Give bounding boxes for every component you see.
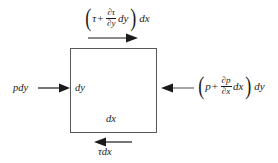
top-differential: dy xyxy=(118,13,128,24)
open-paren: ( xyxy=(198,77,204,95)
bottom-force-arrow-left xyxy=(92,136,132,148)
element-height-label: dy xyxy=(75,83,85,94)
close-paren: ) xyxy=(245,77,251,95)
right-trailing-differential: dy xyxy=(254,81,264,92)
top-fraction-denominator: ∂y xyxy=(106,19,116,28)
right-fraction-denominator: ∂x xyxy=(221,87,231,96)
left-force-arrow-right xyxy=(38,82,70,94)
top-trailing-differential: dx xyxy=(139,13,149,24)
element-width-label: dx xyxy=(106,114,116,125)
fluid-element-force-diagram: dy dx pdy τdx ( τ + ∂τ ∂y dy ) dx ( p + … xyxy=(0,0,278,163)
top-base-symbol: τ xyxy=(92,13,96,24)
left-pressure-force-label: pdy xyxy=(13,83,28,94)
top-shear-force-expression: ( τ + ∂τ ∂y dy ) dx xyxy=(83,8,150,29)
close-paren: ) xyxy=(130,9,136,27)
right-base-symbol: p xyxy=(205,81,211,92)
top-fraction-numerator: ∂τ xyxy=(106,8,116,17)
top-operator: + xyxy=(97,13,103,24)
right-operator: + xyxy=(212,81,218,92)
right-pressure-force-expression: ( p + ∂p ∂x dx ) dy xyxy=(196,76,265,97)
bottom-shear-force-label: τdx xyxy=(98,147,112,158)
top-force-arrow-right xyxy=(88,32,138,44)
right-fraction-numerator: ∂p xyxy=(221,76,232,85)
top-partial-derivative-fraction: ∂τ ∂y xyxy=(106,8,116,29)
right-partial-derivative-fraction: ∂p ∂x xyxy=(221,76,232,97)
open-paren: ( xyxy=(85,9,91,27)
right-force-arrow-left xyxy=(158,82,194,94)
right-differential: dx xyxy=(233,81,243,92)
